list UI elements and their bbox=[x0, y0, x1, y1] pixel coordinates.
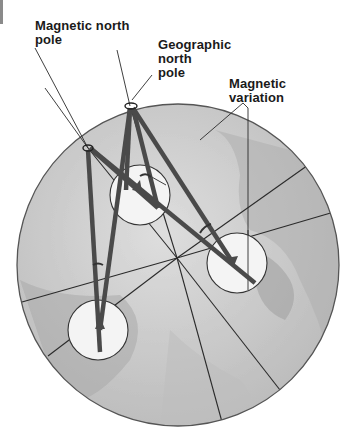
label-line: Magnetic bbox=[229, 77, 286, 91]
globe bbox=[17, 104, 340, 430]
label-line: north bbox=[158, 52, 231, 66]
label-line: variation bbox=[229, 91, 286, 105]
label-geographic-north-pole: Geographic north pole bbox=[158, 38, 231, 80]
label-line: Magnetic north bbox=[35, 19, 130, 33]
compass-right bbox=[207, 233, 267, 293]
label-line: pole bbox=[158, 66, 231, 80]
label-magnetic-variation: Magnetic variation bbox=[229, 77, 286, 105]
label-magnetic-north-pole: Magnetic north pole bbox=[35, 19, 130, 47]
label-line: pole bbox=[35, 33, 130, 47]
label-line: Geographic bbox=[158, 38, 231, 52]
